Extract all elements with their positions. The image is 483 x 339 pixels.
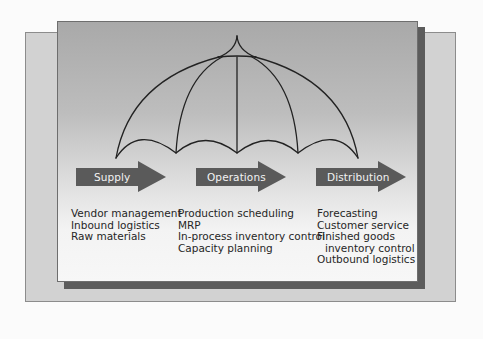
supply-item: Vendor management xyxy=(71,208,182,220)
supply-activities: Vendor management Inbound logistics Raw … xyxy=(71,208,182,243)
operations-item: In-process inventory control xyxy=(178,231,325,243)
supply-item: Raw materials xyxy=(71,231,182,243)
operations-label: Operations xyxy=(207,170,266,184)
distribution-item: Forecasting xyxy=(317,208,415,220)
umbrella-icon xyxy=(116,36,358,158)
umbrella-rib-inner-right xyxy=(252,57,298,153)
distribution-label: Distribution xyxy=(327,170,389,184)
operations-item: Capacity planning xyxy=(178,243,325,255)
distribution-item: Finished goods xyxy=(317,231,415,243)
distribution-item: Outbound logistics xyxy=(317,254,415,266)
umbrella-tip-right xyxy=(237,36,255,57)
distribution-activities: Forecasting Customer service Finished go… xyxy=(317,208,415,266)
supply-label: Supply xyxy=(94,170,130,184)
umbrella-rib-inner-left xyxy=(176,57,222,153)
umbrella-tip-left xyxy=(219,36,237,57)
operations-item: Production scheduling xyxy=(178,208,325,220)
operations-activities: Production scheduling MRP In-process inv… xyxy=(178,208,325,254)
